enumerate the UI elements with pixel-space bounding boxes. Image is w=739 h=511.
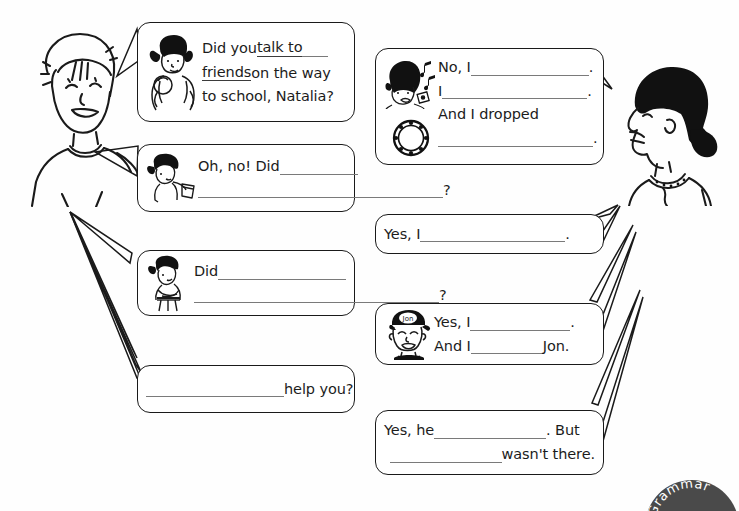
answer-blank[interactable]	[471, 61, 589, 76]
answer-blank[interactable]	[390, 448, 502, 463]
bubble-a1[interactable]: No, I .I .And I dropped.	[375, 48, 604, 165]
static-text: Jon.	[543, 338, 570, 355]
bubble-q4[interactable]: help you?	[137, 365, 355, 413]
static-text: Oh, no! Did	[198, 158, 280, 175]
static-text: . But	[546, 422, 580, 439]
bubble-a2[interactable]: Yes, I .	[375, 214, 604, 254]
bubble-q1[interactable]: Did you talk tofriends on the wayto scho…	[137, 22, 355, 122]
worksheet-page: Did you talk tofriends on the wayto scho…	[0, 0, 739, 511]
static-text: Yes, I	[434, 314, 470, 331]
answer-blank[interactable]	[302, 42, 328, 57]
answer-blank[interactable]	[442, 84, 587, 99]
answer-blank[interactable]	[218, 265, 346, 280]
bubble-a3[interactable]: Jon	[375, 303, 604, 365]
answer-blank[interactable]	[420, 227, 565, 242]
static-text: No, I	[438, 59, 471, 76]
bubble-q3[interactable]: Did ?	[137, 250, 355, 316]
boy-jon-icon: Jon	[384, 308, 434, 360]
answer-blank[interactable]	[438, 132, 593, 147]
text-line: Yes, I .	[434, 314, 595, 331]
text-line: wasn't there.	[384, 446, 595, 463]
static-text: Did you	[202, 40, 257, 57]
text-line: Yes, he . But	[384, 422, 595, 439]
bubble-q2[interactable]: Oh, no! Did ?	[137, 144, 355, 212]
girl-stomach-ache-icon	[146, 254, 194, 312]
bubble-a4-text: Yes, he . But wasn't there.	[384, 422, 595, 462]
static-text: ?	[443, 182, 451, 199]
girl-drinking-icon	[146, 152, 198, 204]
static-text: .	[570, 314, 575, 331]
static-text: .	[565, 226, 570, 243]
static-text: on the way	[251, 65, 330, 82]
text-line: No, I .	[438, 59, 598, 76]
answer-blank[interactable]	[471, 339, 543, 354]
bubble-a3-text: Yes, I .And I Jon.	[434, 314, 595, 354]
answer-blank[interactable]	[146, 382, 284, 397]
static-text: .	[593, 130, 598, 147]
text-line: And I dropped	[438, 106, 598, 123]
answer-blank[interactable]	[434, 424, 546, 439]
static-text: Yes, I	[384, 226, 420, 243]
boy-character	[18, 22, 138, 207]
bubble-a2-text: Yes, I .	[384, 226, 595, 243]
example-answer: talk to	[257, 39, 302, 57]
text-line: ?	[194, 287, 447, 304]
text-line: friends on the way	[202, 64, 346, 82]
static-text: wasn't there.	[502, 446, 595, 463]
tambourine-icon	[389, 117, 433, 163]
static-text: .	[589, 59, 594, 76]
bubble-q3-text: Did ?	[194, 263, 447, 303]
text-line: Yes, I .	[384, 226, 595, 243]
girls-talking-icon	[146, 33, 202, 111]
answer-blank[interactable]	[280, 160, 358, 175]
bubble-q4-text: help you?	[146, 381, 353, 398]
text-line: ?	[198, 182, 451, 199]
bubble-a1-text: No, I .I .And I dropped.	[438, 57, 598, 147]
bubble-q1-text: Did you talk tofriends on the wayto scho…	[202, 39, 346, 105]
answer-blank[interactable]	[194, 288, 439, 303]
static-text: Yes, he	[384, 422, 434, 439]
static-text: And I	[434, 338, 471, 355]
girl-natalia-character	[607, 58, 725, 206]
bubble-a4[interactable]: Yes, he . But wasn't there.	[375, 410, 604, 475]
example-answer: friends	[202, 64, 251, 82]
static-text: ?	[439, 287, 447, 304]
static-text: to school, Natalia?	[202, 88, 334, 105]
text-line: help you?	[146, 381, 353, 398]
text-line: Did	[194, 263, 447, 280]
singing-girl-icon	[384, 59, 438, 113]
static-text: .	[587, 83, 592, 100]
text-line: I .	[438, 83, 598, 100]
static-text: And I dropped	[438, 106, 539, 123]
text-line: Did you talk to	[202, 39, 346, 57]
static-text: help you?	[284, 381, 353, 398]
cap-label: Jon	[402, 315, 414, 323]
text-line: to school, Natalia?	[202, 88, 346, 105]
text-line: And I Jon.	[434, 338, 595, 355]
answer-blank[interactable]	[198, 183, 443, 198]
static-text: Did	[194, 263, 218, 280]
text-line: .	[438, 130, 598, 147]
answer-blank[interactable]	[470, 316, 570, 331]
